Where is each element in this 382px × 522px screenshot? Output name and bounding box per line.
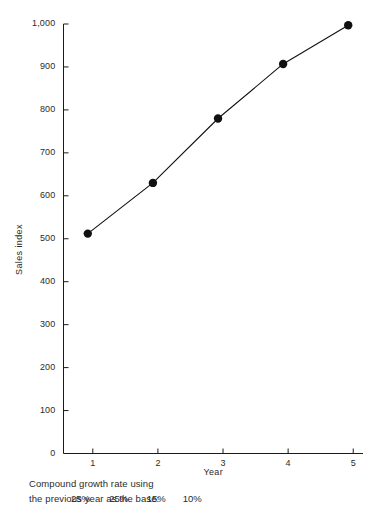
growth-rate-value: 10% xyxy=(183,493,202,504)
sales-index-line-chart: 01002003004005006007008009001,000 12345 … xyxy=(0,0,382,522)
x-axis-title: Year xyxy=(173,467,253,477)
y-axis-tick-label: 900 xyxy=(0,61,56,71)
y-axis-tick-label: 200 xyxy=(0,362,56,372)
x-axis-tick-label: 1 xyxy=(73,458,113,468)
y-axis-tick-label: 500 xyxy=(0,233,56,243)
y-axis-title: Sales index xyxy=(14,224,24,275)
y-axis-ticks xyxy=(64,24,69,454)
growth-rate-value: 15% xyxy=(147,493,166,504)
x-axis-tick-label: 3 xyxy=(203,458,243,468)
chart-canvas xyxy=(0,0,382,522)
data-point-marker xyxy=(344,21,352,29)
growth-note-line-2: the previous year as the base: xyxy=(29,493,159,504)
data-point-marker xyxy=(279,60,287,68)
growth-rate-value: 25% xyxy=(71,493,90,504)
y-axis-tick-label: 100 xyxy=(0,405,56,415)
y-axis-tick-label: 600 xyxy=(0,190,56,200)
y-axis-tick-label: 800 xyxy=(0,104,56,114)
data-line-series xyxy=(88,25,348,233)
x-axis-ticks xyxy=(93,449,353,454)
y-axis-tick-label: 0 xyxy=(0,448,56,458)
y-axis-tick-label: 400 xyxy=(0,276,56,286)
growth-rate-value: 25% xyxy=(109,493,128,504)
growth-note-line-1: Compound growth rate using xyxy=(29,478,154,489)
y-axis-tick-label: 300 xyxy=(0,319,56,329)
y-axis-tick-label: 700 xyxy=(0,147,56,157)
x-axis-tick-label: 2 xyxy=(138,458,178,468)
x-axis-tick-label: 5 xyxy=(333,458,373,468)
data-point-marker xyxy=(214,114,222,122)
x-axis-tick-label: 4 xyxy=(268,458,308,468)
data-point-marker xyxy=(149,179,157,187)
axes-group xyxy=(64,24,364,454)
data-point-marker xyxy=(84,229,92,237)
y-axis-tick-label: 1,000 xyxy=(0,18,56,28)
